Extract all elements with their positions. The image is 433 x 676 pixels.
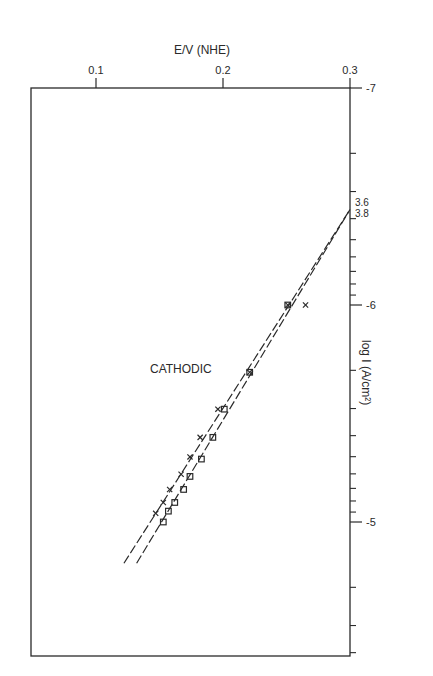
y-axis-title: log I (A/cm²) [360, 340, 372, 405]
chart-canvas: 0.10.20.3-7-6-5 [0, 0, 433, 676]
fit-lines [124, 210, 350, 564]
y-axis-title-text: log I (A/cm²) [359, 340, 373, 405]
svg-text:0.2: 0.2 [215, 64, 230, 76]
svg-text:-7: -7 [366, 82, 376, 94]
line-label-3-8: 3.8 [355, 209, 369, 219]
data-points [153, 302, 308, 525]
x-axis-title: E/V (NHE) [174, 44, 230, 56]
line-label-3-6: 3.6 [355, 198, 369, 208]
svg-text:0.3: 0.3 [342, 64, 357, 76]
svg-text:-6: -6 [366, 299, 376, 311]
svg-text:-5: -5 [366, 516, 376, 528]
x-axis-ticks [96, 78, 350, 88]
cathodic-annotation: CATHODIC [150, 363, 212, 375]
svg-text:0.1: 0.1 [88, 64, 103, 76]
tick-labels: 0.10.20.3-7-6-5 [88, 64, 375, 528]
